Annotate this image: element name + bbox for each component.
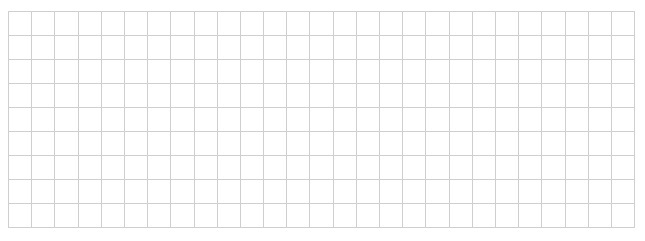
grid-cell <box>171 156 194 180</box>
grid-cell <box>264 204 287 228</box>
grid-cell <box>519 12 542 36</box>
grid-cell <box>519 36 542 60</box>
grid-cell <box>334 156 357 180</box>
grid-cell <box>79 36 102 60</box>
grid-cell <box>589 84 612 108</box>
grid-cell <box>9 108 32 132</box>
grid-cell <box>310 204 333 228</box>
grid-cell <box>264 132 287 156</box>
grid-cell <box>380 84 403 108</box>
grid-cell <box>9 36 32 60</box>
grid-cell <box>496 204 519 228</box>
grid-cell <box>566 156 589 180</box>
grid-cell <box>148 84 171 108</box>
grid-cell <box>519 84 542 108</box>
grid-cell <box>55 36 78 60</box>
grid-cell <box>357 156 380 180</box>
grid-cell <box>218 36 241 60</box>
grid-cell <box>542 132 565 156</box>
grid-cell <box>171 132 194 156</box>
grid-cell <box>171 84 194 108</box>
grid-cell <box>287 156 310 180</box>
grid-cell <box>55 108 78 132</box>
grid-cell <box>519 60 542 84</box>
grid-cell <box>102 180 125 204</box>
grid-cell <box>426 36 449 60</box>
grid-cell <box>218 180 241 204</box>
grid-cell <box>357 36 380 60</box>
grid-cell <box>450 36 473 60</box>
grid-cell <box>32 60 55 84</box>
grid-cell <box>426 132 449 156</box>
grid-cell <box>264 180 287 204</box>
grid-cell <box>55 180 78 204</box>
grid-cell <box>310 108 333 132</box>
grid-cell <box>148 132 171 156</box>
grid-cell <box>102 36 125 60</box>
grid-cell <box>450 108 473 132</box>
grid-cell <box>589 60 612 84</box>
grid-cell <box>357 132 380 156</box>
grid-cell <box>195 132 218 156</box>
grid-cell <box>264 12 287 36</box>
grid-cell <box>125 132 148 156</box>
grid-cell <box>218 132 241 156</box>
grid-cell <box>241 84 264 108</box>
grid-cell <box>357 204 380 228</box>
grid-cell <box>334 108 357 132</box>
grid-cell <box>102 12 125 36</box>
grid-cell <box>589 108 612 132</box>
grid-cell <box>310 84 333 108</box>
grid-cell <box>426 180 449 204</box>
grid-cell <box>589 12 612 36</box>
grid-cell <box>55 84 78 108</box>
grid-cell <box>55 12 78 36</box>
grid-cell <box>264 60 287 84</box>
grid-cell <box>357 108 380 132</box>
grid-cell <box>542 12 565 36</box>
grid-cell <box>612 84 635 108</box>
grid-cell <box>32 36 55 60</box>
grid-cell <box>566 60 589 84</box>
grid-cell <box>473 12 496 36</box>
grid-cell <box>566 108 589 132</box>
grid-cell <box>380 156 403 180</box>
grid-cell <box>403 60 426 84</box>
grid-cell <box>380 36 403 60</box>
grid-cell <box>32 180 55 204</box>
grid-cell <box>589 180 612 204</box>
grid-cell <box>542 84 565 108</box>
grid-cell <box>287 132 310 156</box>
grid-cell <box>310 12 333 36</box>
grid-cell <box>79 204 102 228</box>
grid-cell <box>195 204 218 228</box>
grid-cell <box>287 180 310 204</box>
grid-cell <box>148 36 171 60</box>
grid-cell <box>125 180 148 204</box>
grid-cell <box>241 132 264 156</box>
grid-cell <box>310 180 333 204</box>
grid-cell <box>566 180 589 204</box>
grid-cell <box>612 180 635 204</box>
grid-cell <box>171 108 194 132</box>
grid-cell <box>32 204 55 228</box>
grid-cell <box>195 36 218 60</box>
grid-cell <box>195 180 218 204</box>
grid-cell <box>102 156 125 180</box>
grid-cell <box>473 108 496 132</box>
grid-cell <box>334 36 357 60</box>
grid-cell <box>195 60 218 84</box>
grid-cell <box>125 156 148 180</box>
grid-cell <box>32 12 55 36</box>
grid-cell <box>264 108 287 132</box>
grid-cell <box>566 84 589 108</box>
grid-cell <box>79 132 102 156</box>
grid-cell <box>310 36 333 60</box>
grid-cell <box>9 84 32 108</box>
grid-cell <box>496 60 519 84</box>
grid-cell <box>195 84 218 108</box>
grid-cell <box>380 180 403 204</box>
grid-cell <box>519 180 542 204</box>
grid-cell <box>426 108 449 132</box>
grid-cell <box>79 12 102 36</box>
